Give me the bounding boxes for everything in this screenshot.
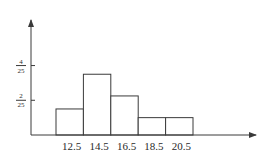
- histogram-bar: [138, 118, 165, 135]
- x-tick-label: 20.5: [172, 140, 192, 152]
- y-tick-denominator: 25: [18, 67, 26, 75]
- histogram-bar: [166, 118, 193, 135]
- bars-group: [56, 74, 193, 135]
- x-tick-label: 16.5: [117, 140, 137, 152]
- y-tick-numerator: 2: [19, 92, 23, 100]
- y-tick-denominator: 25: [18, 101, 26, 109]
- y-tick-numerator: 4: [19, 58, 23, 66]
- x-tick-label: 14.5: [89, 140, 109, 152]
- histogram-chart: 225425 12.514.516.518.520.5: [0, 0, 267, 158]
- y-ticks-group: 225425: [16, 58, 35, 110]
- histogram-bar: [111, 96, 138, 135]
- histogram-bar: [83, 74, 110, 135]
- x-tick-label: 12.5: [62, 140, 82, 152]
- histogram-bar: [56, 109, 83, 135]
- x-tick-label: 18.5: [144, 140, 164, 152]
- x-labels-group: 12.514.516.518.520.5: [62, 140, 191, 152]
